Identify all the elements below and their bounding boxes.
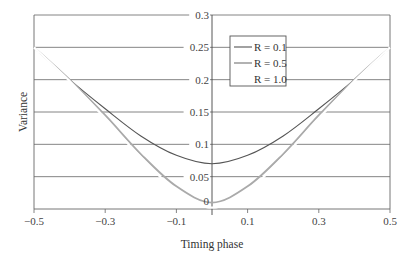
- tick-labels: 00.050.10.150.20.250.3−0.5−0.3−0.10.10.3…: [24, 9, 397, 227]
- x-tick-label: −0.3: [95, 215, 115, 227]
- y-tick-label: 0.05: [190, 171, 210, 183]
- x-tick-label: 0.3: [312, 215, 326, 227]
- x-tick-label: −0.1: [166, 215, 186, 227]
- y-tick-label: 0.25: [190, 41, 210, 53]
- legend: R = 0.1R = 0.5R = 1.0: [230, 36, 287, 86]
- legend-label: R = 0.5: [254, 57, 287, 69]
- x-tick-label: 0.5: [383, 215, 397, 227]
- x-tick-label: −0.5: [24, 215, 44, 227]
- y-tick-label: 0.15: [190, 106, 210, 118]
- axes: [34, 15, 390, 215]
- y-tick-label: 0.1: [195, 138, 209, 150]
- x-tick-label: 0.1: [241, 215, 255, 227]
- y-axis-title: Variance: [17, 92, 29, 132]
- y-tick-label: 0: [204, 195, 210, 207]
- legend-label: R = 1.0: [254, 73, 287, 85]
- variance-chart: 00.050.10.150.20.250.3−0.5−0.3−0.10.10.3…: [0, 0, 413, 258]
- legend-label: R = 0.1: [254, 41, 287, 53]
- y-tick-label: 0.3: [195, 9, 209, 21]
- y-tick-label: 0.2: [195, 74, 209, 86]
- x-axis-title: Timing phase: [181, 238, 244, 251]
